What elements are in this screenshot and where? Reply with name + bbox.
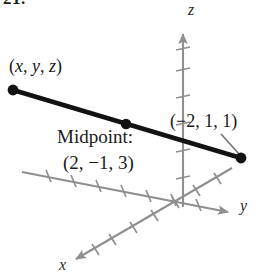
- coordinate-figure-svg: [0, 0, 268, 279]
- endpoint-left-comma-2: ,: [40, 56, 49, 76]
- endpoint-left-comma-1: ,: [23, 56, 32, 76]
- midpoint-label: (2, −1, 3): [63, 153, 134, 173]
- endpoint-left-close: ): [56, 56, 62, 76]
- figure-container: 21.: [0, 0, 268, 279]
- point-endpoint-right: [236, 153, 247, 164]
- x-axis-label: x: [59, 257, 66, 274]
- endpoint-left-label: (x, y, z): [9, 57, 62, 76]
- point-endpoint-left: [8, 85, 19, 96]
- z-axis-label: z: [188, 2, 194, 19]
- endpoint-left-z: z: [49, 56, 56, 76]
- endpoint-right-label: (−2, 1, 1): [170, 112, 237, 131]
- x-axis: [76, 168, 232, 259]
- endpoint-left-y: y: [32, 56, 40, 76]
- endpoint-left-x: x: [15, 56, 23, 76]
- midpoint-caption: Midpoint:: [57, 127, 133, 147]
- y-axis-label: y: [240, 198, 247, 215]
